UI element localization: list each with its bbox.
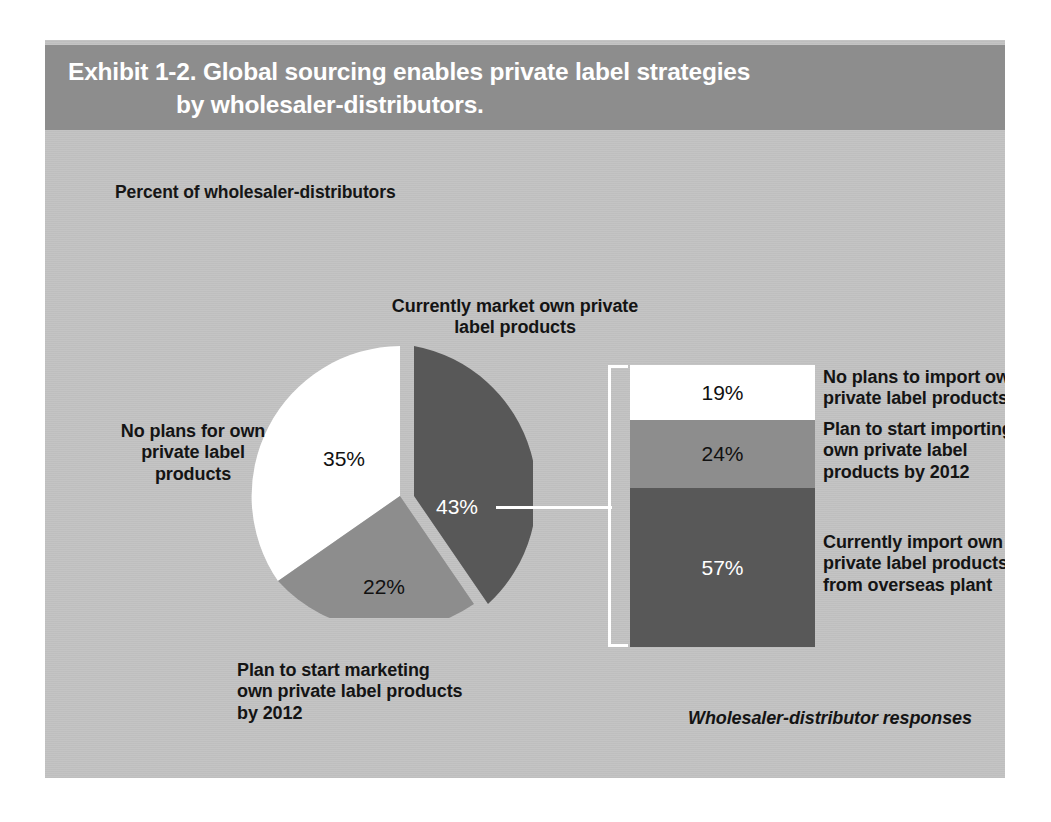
bracket-top-arm: [608, 365, 628, 368]
stacked-bar-chart: 19% 24% 57%: [630, 365, 815, 647]
bar-callout-plan-start-importing: Plan to start importing own private labe…: [823, 419, 1005, 483]
bar-segment-57: 57%: [630, 488, 815, 647]
pie-callout-currently-market: Currently market own private label produ…: [385, 296, 645, 339]
title-line-2: by wholesaler-distributors.: [68, 89, 968, 122]
bar-callout-currently-import: Currently import own private label produ…: [823, 532, 1005, 596]
bar-segment-24: 24%: [630, 420, 815, 488]
bar-value-label-19: 19%: [701, 381, 743, 405]
pie-value-label-22: 22%: [363, 575, 405, 599]
header-band: Exhibit 1-2. Global sourcing enables pri…: [45, 45, 1005, 130]
bracket-bottom-arm: [608, 644, 628, 647]
exhibit-panel: Exhibit 1-2. Global sourcing enables pri…: [45, 40, 1005, 778]
footer-note: Wholesaler-distributor responses: [688, 708, 972, 729]
pie-callout-no-plans-own: No plans for own private label products: [103, 421, 283, 485]
bar-callout-no-plans-import: No plans to import own private label pro…: [823, 367, 1005, 410]
page-title: Exhibit 1-2. Global sourcing enables pri…: [68, 56, 968, 121]
leader-line: [496, 506, 612, 509]
title-line-1: Exhibit 1-2. Global sourcing enables pri…: [68, 56, 968, 89]
bar-segment-19: 19%: [630, 365, 815, 420]
pie-value-label-35: 35%: [323, 447, 365, 471]
chart-subtitle: Percent of wholesaler-distributors: [115, 182, 396, 203]
pie-callout-plan-start-marketing: Plan to start marketing own private labe…: [237, 660, 467, 724]
bar-value-label-24: 24%: [701, 442, 743, 466]
pie-value-label-43: 43%: [436, 495, 478, 519]
bar-value-label-57: 57%: [701, 556, 743, 580]
